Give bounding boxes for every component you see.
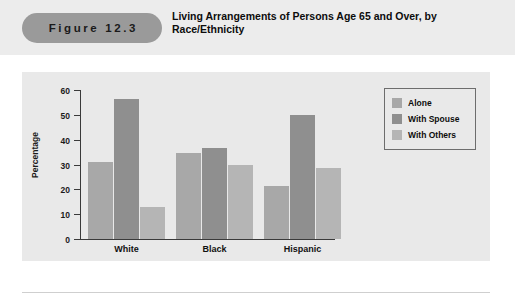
bar-black-with-others <box>228 165 253 240</box>
y-tick-mark <box>74 165 81 166</box>
x-axis-line <box>80 239 335 240</box>
legend-label: With Others <box>408 130 456 140</box>
y-tick-label: 0 <box>40 235 70 245</box>
figure-number-pill: Figure 12.3 <box>22 13 162 43</box>
y-tick-mark <box>74 214 81 215</box>
x-label-black: Black <box>175 244 255 254</box>
y-tick-label: 50 <box>40 110 70 120</box>
legend-swatch-icon <box>392 130 402 140</box>
footer-divider <box>22 292 490 293</box>
legend-label: Alone <box>408 98 432 108</box>
y-tick-label: 10 <box>40 210 70 220</box>
y-tick-label: 20 <box>40 185 70 195</box>
legend-swatch-icon <box>392 114 402 124</box>
bar-white-alone <box>88 162 113 239</box>
bar-white-with-spouse <box>114 99 139 239</box>
legend-swatch-icon <box>392 98 402 108</box>
bar-white-with-others <box>140 207 165 239</box>
chart-legend: AloneWith SpouseWith Others <box>384 88 476 150</box>
bar-hispanic-with-spouse <box>290 115 315 239</box>
chart-panel: Percentage 0102030405060 WhiteBlackHispa… <box>22 72 490 261</box>
figure-header-band: Figure 12.3 Living Arrangements of Perso… <box>0 0 515 55</box>
bar-hispanic-with-others <box>316 168 341 239</box>
bar-hispanic-alone <box>264 186 289 239</box>
y-tick-mark <box>74 115 81 116</box>
y-tick-mark <box>74 90 81 91</box>
figure-title: Living Arrangements of Persons Age 65 an… <box>172 10 472 36</box>
x-label-hispanic: Hispanic <box>263 244 343 254</box>
y-axis-title: Percentage <box>30 120 40 190</box>
legend-label: With Spouse <box>408 114 459 124</box>
bar-black-alone <box>176 153 201 239</box>
legend-item-alone[interactable]: Alone <box>392 96 469 110</box>
legend-item-with-spouse[interactable]: With Spouse <box>392 112 469 126</box>
legend-item-with-others[interactable]: With Others <box>392 128 469 142</box>
bar-black-with-spouse <box>202 148 227 239</box>
y-tick-label: 60 <box>40 86 70 96</box>
y-tick-mark <box>74 140 81 141</box>
y-tick-mark <box>74 189 81 190</box>
y-tick-mark <box>74 239 81 240</box>
x-label-white: White <box>87 244 167 254</box>
y-tick-label: 30 <box>40 160 70 170</box>
y-tick-label: 40 <box>40 135 70 145</box>
